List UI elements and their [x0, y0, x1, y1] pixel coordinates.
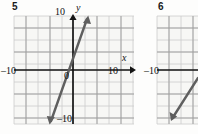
x-tick-left-5: –10: [1, 65, 16, 76]
x-axis-name-5: x: [122, 52, 126, 63]
graph-panel-5: 5: [0, 0, 140, 134]
y-axis-name-5: y: [76, 2, 80, 13]
y-tick-bottom-5: –10: [57, 113, 72, 124]
origin-label-5: 0: [64, 70, 69, 81]
y-tick-top-5: 10: [55, 6, 65, 17]
x-tick-left-6: –10: [144, 65, 159, 76]
graph-panel-6: 6: [140, 0, 198, 134]
worksheet-figure-pair: 5: [0, 0, 198, 134]
x-tick-right-5: 10: [108, 65, 118, 76]
